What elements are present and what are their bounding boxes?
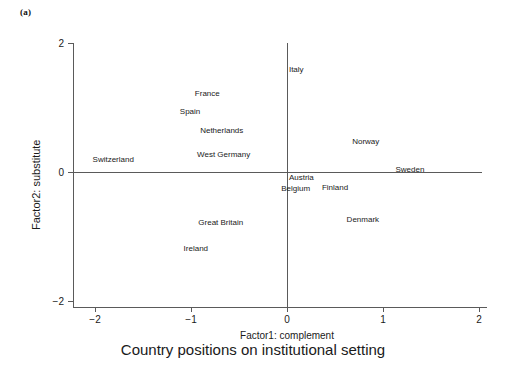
- x-tick-label-2: 2: [476, 314, 482, 325]
- point-label-great-britain: Great Britain: [198, 219, 243, 227]
- x-tick-neg1: [191, 307, 192, 312]
- x-tick-2: [479, 307, 480, 312]
- y-tick-neg2: [68, 301, 73, 302]
- x-tick-label-0: 0: [284, 314, 290, 325]
- point-label-norway: Norway: [352, 138, 379, 146]
- x-axis-spine: [73, 307, 487, 308]
- figure-panel-a: (a) 2 0 −2 −2 −1 0 1 2 Factor2: substitu…: [0, 0, 513, 377]
- point-label-sweden: Sweden: [395, 166, 424, 174]
- x-tick-0: [287, 307, 288, 312]
- y-tick-2: [68, 43, 73, 44]
- y-tick-0: [68, 172, 73, 173]
- point-label-netherlands: Netherlands: [200, 127, 243, 135]
- point-label-finland: Finland: [322, 184, 348, 192]
- x-tick-neg2: [95, 307, 96, 312]
- y-axis-label: Factor2: substitute: [30, 140, 42, 231]
- y-tick-label-neg2: −2: [40, 296, 64, 307]
- figure-caption: Country positions on institutional setti…: [121, 341, 385, 358]
- zero-vertical-line: [287, 43, 288, 307]
- point-label-italy: Italy: [289, 66, 304, 74]
- point-label-france: France: [195, 90, 220, 98]
- y-tick-label-2: 2: [40, 38, 64, 49]
- x-tick-label-neg2: −2: [89, 314, 100, 325]
- scatter-plot-area: 2 0 −2 −2 −1 0 1 2 Factor2: substitute F…: [0, 0, 513, 377]
- x-tick-1: [383, 307, 384, 312]
- x-axis-label: Factor1: complement: [240, 330, 334, 341]
- point-label-austria: Austria: [289, 174, 314, 182]
- x-tick-label-1: 1: [380, 314, 386, 325]
- point-label-switzerland: Switzerland: [93, 156, 134, 164]
- point-label-ireland: Ireland: [184, 245, 208, 253]
- y-tick-label-0: 0: [40, 167, 64, 178]
- point-label-spain: Spain: [180, 108, 200, 116]
- point-label-west-germany: West Germany: [197, 151, 250, 159]
- x-tick-label-neg1: −1: [185, 314, 196, 325]
- point-label-belgium: Belgium: [281, 185, 310, 193]
- y-axis-spine: [73, 43, 74, 308]
- point-label-denmark: Denmark: [347, 216, 379, 224]
